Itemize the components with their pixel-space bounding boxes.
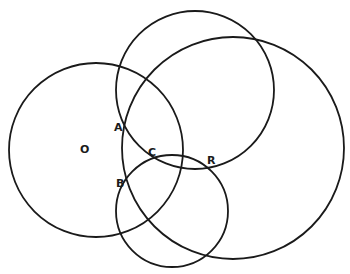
label-b: B [116, 177, 124, 190]
circles-diagram: OABCR [0, 0, 350, 274]
label-c: C [148, 146, 156, 159]
label-o: O [80, 143, 89, 156]
label-a: A [114, 121, 123, 134]
labels-group: OABCR [80, 121, 216, 190]
circle-top [116, 11, 274, 169]
label-r: R [207, 154, 216, 167]
circle-bottom [116, 155, 228, 267]
circles-group [9, 11, 344, 267]
circle-o [9, 63, 183, 237]
